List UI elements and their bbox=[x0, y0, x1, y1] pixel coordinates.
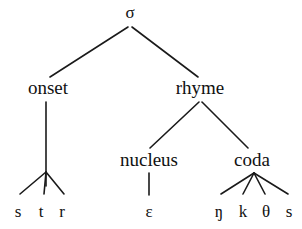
terminal-eng-coda: ŋ bbox=[215, 202, 223, 221]
terminal-epsilon-nucleus: ɛ bbox=[145, 202, 152, 221]
node-onset: onset bbox=[28, 77, 69, 98]
syllable-tree-figure: σ onset rhyme nucleus coda s t r ɛ ŋ k θ… bbox=[0, 0, 302, 229]
terminal-s-coda: s bbox=[286, 202, 293, 221]
tree-label-layer: σ onset rhyme nucleus coda s t r ɛ ŋ k θ… bbox=[15, 3, 293, 221]
edge-onset-r bbox=[46, 172, 64, 194]
edge-sigma-onset bbox=[50, 27, 128, 77]
syllable-tree-svg: σ onset rhyme nucleus coda s t r ɛ ŋ k θ… bbox=[0, 0, 302, 229]
node-rhyme: rhyme bbox=[176, 77, 225, 98]
terminal-r-onset: r bbox=[59, 202, 65, 221]
edge-rhyme-nucleus bbox=[150, 102, 199, 148]
edge-sigma-rhyme bbox=[132, 27, 198, 77]
terminal-k-coda: k bbox=[239, 202, 248, 221]
node-nucleus: nucleus bbox=[120, 149, 178, 170]
terminal-s-onset: s bbox=[15, 202, 22, 221]
edge-onset-t bbox=[44, 172, 46, 194]
terminal-theta-coda: θ bbox=[262, 202, 270, 221]
edge-rhyme-coda bbox=[202, 102, 248, 148]
node-sigma: σ bbox=[125, 3, 134, 22]
terminal-t-onset: t bbox=[39, 202, 44, 221]
node-coda: coda bbox=[234, 149, 270, 170]
edge-onset-s bbox=[20, 172, 46, 194]
